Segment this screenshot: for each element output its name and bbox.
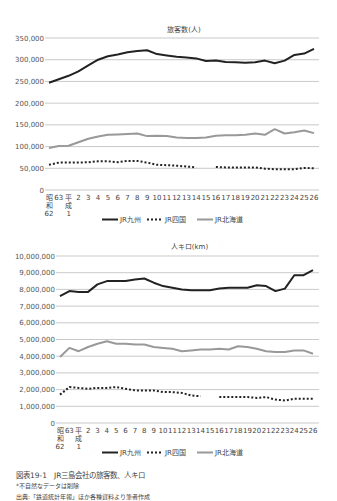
y-tick-label: 100,000: [15, 143, 44, 151]
legend: JR九州JR四国JR北海道: [102, 448, 243, 457]
y-tick-label: 10,000,000: [15, 253, 55, 261]
y-tick-label: 9,000,000: [19, 269, 55, 277]
y-tick-label: 0: [40, 187, 44, 195]
y-tick-label: 200,000: [15, 100, 44, 108]
x-tick-label: 63: [54, 194, 63, 202]
x-tick-label: 4: [96, 194, 101, 202]
svg-text:和: 和: [57, 434, 64, 443]
y-tick-label: 350,000: [15, 35, 44, 43]
figure-caption-note: *不自然なデータは削除: [16, 481, 79, 490]
y-tick-label: 3,000,000: [19, 369, 55, 377]
legend-label: JR北海道: [214, 448, 243, 457]
x-tick-label: 11: [168, 427, 177, 435]
x-tick-label: 22: [270, 194, 279, 202]
y-tick-label: 300,000: [15, 56, 44, 64]
x-tick-label: 5: [114, 427, 118, 435]
x-tick-label: 3: [86, 194, 90, 202]
x-tick-label: 2: [76, 194, 80, 202]
x-tick-label: 20: [251, 194, 260, 202]
chart-title: 旅客数(人): [167, 25, 201, 34]
svg-text:1: 1: [66, 210, 70, 218]
x-tick-label: 2: [86, 427, 90, 435]
x-tick-label: 18: [234, 427, 243, 435]
svg-text:和: 和: [46, 201, 53, 210]
x-tick-label: 21: [262, 427, 271, 435]
legend-label: JR四国: [164, 216, 186, 224]
x-tick-label: 3: [95, 427, 99, 435]
x-tick-label: 昭: [57, 427, 64, 435]
x-tick-label: 9: [145, 194, 149, 202]
x-tick-label: 8: [142, 427, 146, 435]
passenger-km-chart: 人キロ(km)01,000,0002,000,0003,000,0004,000…: [15, 243, 319, 457]
y-tick-label: 6,000,000: [19, 319, 55, 327]
series-line-JR九州: [49, 49, 314, 83]
x-tick-label: 8: [135, 194, 139, 202]
y-tick-label: 5,000,000: [19, 336, 55, 344]
x-tick-label: 9: [151, 427, 155, 435]
x-tick-label: 20: [252, 427, 261, 435]
series-line-JR四国: [60, 387, 201, 396]
chart-title: 人キロ(km): [171, 243, 209, 251]
series-line-JR四国: [49, 161, 196, 168]
x-tick-label: 25: [299, 427, 308, 435]
x-tick-label: 21: [260, 194, 269, 202]
x-tick-label: 昭: [46, 194, 53, 202]
x-tick-label: 平: [75, 427, 82, 435]
x-tick-label: 14: [192, 194, 201, 202]
figure-caption-title: 図表19-1 JR三島会社の旅客数、人キロ: [16, 469, 145, 480]
x-tick-label: 25: [300, 194, 309, 202]
x-tick-label: 12: [177, 427, 186, 435]
x-tick-label: 11: [162, 194, 171, 202]
x-tick-label: 26: [310, 194, 319, 202]
x-tick-label: 4: [105, 427, 110, 435]
figure-caption-source: 出典:「鉄道統計年報」ほか各種資料より筆者作成: [16, 492, 150, 501]
x-tick-label: 19: [241, 194, 250, 202]
x-tick-label: 26: [309, 427, 318, 435]
y-tick-label: 4,000,000: [19, 353, 55, 361]
x-tick-label: 23: [280, 194, 289, 202]
legend: JR九州JR四国JR北海道: [102, 215, 243, 224]
y-tick-label: 150,000: [15, 121, 44, 129]
x-tick-label: 7: [125, 194, 129, 202]
x-tick-label: 16: [215, 427, 224, 435]
x-tick-label: 14: [196, 427, 205, 435]
y-tick-label: 0: [51, 420, 55, 428]
legend-label: JR四国: [164, 449, 186, 457]
svg-text:62: 62: [56, 443, 65, 451]
y-tick-label: 1,000,000: [19, 403, 55, 411]
x-tick-label: 17: [221, 194, 230, 202]
y-tick-label: 2,000,000: [19, 386, 55, 394]
y-tick-label: 7,000,000: [19, 303, 55, 311]
x-tick-label: 18: [231, 194, 240, 202]
x-tick-label: 16: [211, 194, 220, 202]
charts-canvas: 旅客数(人)050,000100,000150,000200,000250,00…: [0, 0, 337, 501]
x-tick-label: 6: [115, 194, 120, 202]
x-tick-label: 22: [271, 427, 280, 435]
x-tick-label: 6: [123, 427, 128, 435]
series-line-JR四国: [219, 397, 313, 400]
x-tick-label: 15: [205, 427, 214, 435]
svg-text:62: 62: [45, 210, 54, 218]
x-tick-label: 15: [202, 194, 211, 202]
svg-text:1: 1: [77, 443, 81, 451]
legend-label: JR九州: [119, 215, 141, 224]
x-tick-label: 24: [290, 427, 299, 435]
passengers-chart: 旅客数(人)050,000100,000150,000200,000250,00…: [15, 25, 319, 224]
x-tick-label: 63: [65, 427, 74, 435]
svg-text:成: 成: [75, 434, 82, 443]
x-tick-label: 24: [290, 194, 299, 202]
series-line-JR九州: [60, 270, 313, 296]
x-tick-label: 19: [243, 427, 252, 435]
x-tick-label: 23: [280, 427, 289, 435]
x-tick-label: 10: [159, 427, 168, 435]
x-tick-label: 13: [182, 194, 191, 202]
svg-text:成: 成: [65, 201, 72, 210]
series-line-JR北海道: [49, 129, 314, 148]
x-tick-label: 12: [172, 194, 181, 202]
y-tick-label: 250,000: [15, 78, 44, 86]
x-tick-label: 13: [187, 427, 196, 435]
x-tick-label: 10: [153, 194, 162, 202]
y-tick-label: 50,000: [20, 165, 45, 173]
x-tick-label: 5: [106, 194, 110, 202]
x-tick-label: 平: [65, 194, 72, 202]
